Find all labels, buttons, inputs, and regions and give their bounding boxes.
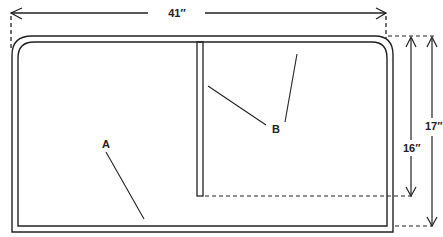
leader-lines — [106, 54, 297, 219]
divider-strip — [197, 42, 203, 196]
window-frame-diagram: 41″ 16″ 17″ A B — [0, 0, 443, 237]
height-dimensions — [205, 36, 437, 226]
